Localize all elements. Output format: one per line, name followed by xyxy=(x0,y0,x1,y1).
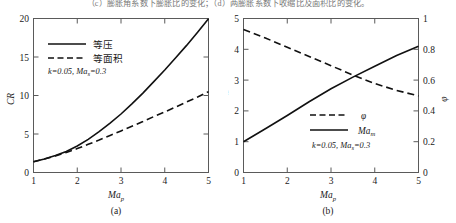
y-tick-label-a-15: 15 xyxy=(20,53,30,63)
curve-a-isoarea xyxy=(34,92,209,162)
x-tick-label-a-2: 2 xyxy=(75,176,80,186)
y-tick-label-a-0: 0 xyxy=(24,168,29,178)
plot-frame-a xyxy=(34,19,209,173)
x-tick-label-b-1: 1 xyxy=(241,176,246,186)
panel-caption-b: (b) xyxy=(322,206,333,217)
legend-b: φ Mam k=0.05, Mas=0.3 xyxy=(310,111,375,152)
curve-b-mam xyxy=(244,46,419,141)
y-tick-label-b-right-4: 0.8 xyxy=(423,45,435,55)
legend-a-label-isobaric: 等压 xyxy=(93,39,113,50)
y-tick-label-a-20: 20 xyxy=(20,14,30,24)
y-tick-label-b-left-4: 4 xyxy=(234,45,239,55)
chart-a-svg: 0 5 10 15 20 1 2 3 4 5 CR Map (a) 等压 xyxy=(0,0,228,223)
chart-panel-b: 0 1 2 3 4 5 0 0.2 0.4 0.6 0.8 1 1 2 3 4 … xyxy=(228,0,456,223)
x-axis-title-a: Map xyxy=(107,190,125,202)
chart-panel-a: 0 5 10 15 20 1 2 3 4 5 CR Map (a) 等压 xyxy=(0,0,228,223)
y-axis-ticks-b-right xyxy=(414,19,419,173)
x-tick-label-a-1: 1 xyxy=(31,176,36,186)
y-tick-label-b-right-1: 0.2 xyxy=(423,137,435,147)
x-tick-label-a-4: 4 xyxy=(162,176,167,186)
y-tick-label-b-left-1: 1 xyxy=(234,137,239,147)
y-axis-ticks-a xyxy=(34,19,209,173)
legend-a-annotation: k=0.05, Mas=0.3 xyxy=(48,67,106,77)
y-tick-label-b-left-0: 0 xyxy=(234,168,239,178)
legend-b-annotation: k=0.05, Mas=0.3 xyxy=(312,141,370,151)
y-tick-label-a-5: 5 xyxy=(24,130,29,140)
x-tick-label-a-3: 3 xyxy=(119,176,124,186)
x-tick-label-a-5: 5 xyxy=(206,176,211,186)
y-tick-label-b-left-2: 2 xyxy=(234,106,239,116)
curve-b-phi xyxy=(244,29,419,96)
y-axis-title-b-right: φ xyxy=(439,96,449,101)
legend-b-label-mam: Mam xyxy=(357,126,375,138)
x-axis-title-b: Map xyxy=(319,190,337,202)
y-tick-label-b-left-3: 3 xyxy=(234,76,239,86)
y-axis-ticks-b-left xyxy=(244,19,249,173)
y-tick-label-b-right-5: 1 xyxy=(423,14,428,24)
y-tick-label-b-right-3: 0.6 xyxy=(423,76,435,86)
y-axis-title-a: CR xyxy=(6,93,16,105)
y-tick-label-b-left-5: 5 xyxy=(234,14,239,24)
y-tick-label-b-right-0: 0 xyxy=(423,168,428,178)
panel-caption-a: (a) xyxy=(111,206,122,217)
y-axis-title-b-left: Mam xyxy=(228,90,229,109)
chart-b-svg: 0 1 2 3 4 5 0 0.2 0.4 0.6 0.8 1 1 2 3 4 … xyxy=(228,0,456,223)
x-tick-label-b-3: 3 xyxy=(329,176,334,186)
legend-b-label-phi: φ xyxy=(361,111,366,121)
x-tick-label-b-2: 2 xyxy=(285,176,290,186)
x-tick-label-b-5: 5 xyxy=(416,176,421,186)
figure-container: （c）膨胀角系数下膨胀比的变化；（d）两膨胀系数下收缩比及面积比的变化。 xyxy=(0,0,456,223)
curve-a-isobaric xyxy=(34,19,209,162)
legend-a-label-isoarea: 等面积 xyxy=(93,53,123,64)
legend-a: 等压 等面积 k=0.05, Mas=0.3 xyxy=(48,39,123,78)
x-axis-ticks-a xyxy=(77,19,165,173)
y-tick-label-b-right-2: 0.4 xyxy=(423,106,435,116)
x-tick-label-b-4: 4 xyxy=(372,176,377,186)
y-tick-label-a-10: 10 xyxy=(20,91,30,101)
